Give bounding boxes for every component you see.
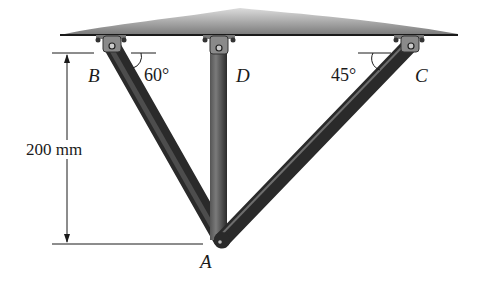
label-b: B bbox=[88, 66, 100, 85]
label-a: A bbox=[200, 252, 212, 271]
dimension-label: 200 mm bbox=[26, 140, 82, 159]
ceiling-support bbox=[60, 8, 458, 35]
pin-support-d bbox=[203, 35, 236, 54]
pin-joint-a bbox=[214, 232, 230, 248]
angle-label-c: 45° bbox=[331, 66, 356, 84]
label-c: C bbox=[415, 66, 428, 85]
member-da bbox=[210, 44, 227, 240]
label-d: D bbox=[236, 66, 250, 85]
angle-label-b: 60° bbox=[144, 66, 169, 84]
truss-diagram: B 60° D 45° C A 200 mm bbox=[0, 0, 488, 287]
